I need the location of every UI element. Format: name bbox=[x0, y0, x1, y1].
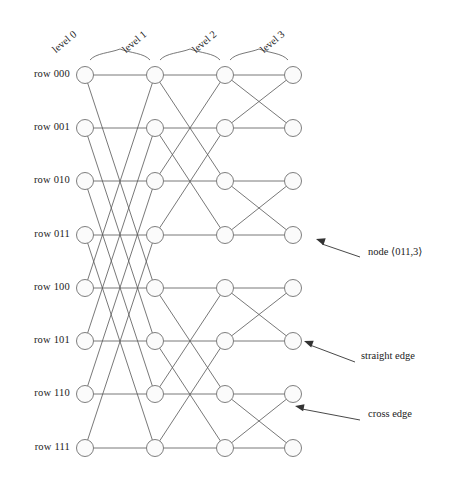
row-label-111: row 111 bbox=[0, 441, 70, 452]
nodes-layer bbox=[77, 67, 302, 457]
node-110-2 bbox=[217, 386, 234, 403]
row-label-100: row 100 bbox=[0, 281, 70, 292]
node-110-3 bbox=[285, 386, 302, 403]
row-label-011: row 011 bbox=[0, 228, 70, 239]
node-annotation-text: node ⟨011,3⟩ bbox=[368, 245, 422, 257]
row-label-000: row 000 bbox=[0, 68, 70, 79]
node-011-1 bbox=[147, 227, 164, 244]
cross-edge-annotation-text: cross edge bbox=[368, 408, 412, 419]
node-001-1 bbox=[147, 120, 164, 137]
node-000-2 bbox=[217, 67, 234, 84]
node-001-2 bbox=[217, 120, 234, 137]
row-label-101: row 101 bbox=[0, 334, 70, 345]
annotation-lines-layer bbox=[295, 238, 360, 420]
node-000-3 bbox=[285, 67, 302, 84]
node-011-3 bbox=[285, 227, 302, 244]
node-001-3 bbox=[285, 120, 302, 137]
cross-edge-annotation-leader-line bbox=[302, 409, 360, 420]
butterfly-network-figure: row 000row 001row 010row 011row 100row 1… bbox=[0, 0, 455, 483]
straight-edge-annotation-leader-line bbox=[310, 345, 355, 362]
node-101-2 bbox=[217, 333, 234, 350]
node-111-3 bbox=[285, 440, 302, 457]
node-010-1 bbox=[147, 173, 164, 190]
row-label-010: row 010 bbox=[0, 174, 70, 185]
node-101-0 bbox=[77, 333, 94, 350]
brace-1 bbox=[160, 49, 220, 60]
brace-0 bbox=[90, 49, 150, 60]
node-annotation-arrowhead bbox=[316, 238, 326, 245]
cross-edge-annotation-arrowhead bbox=[295, 404, 305, 411]
node-111-1 bbox=[147, 440, 164, 457]
edges-layer bbox=[88, 75, 287, 448]
row-label-001: row 001 bbox=[0, 121, 70, 132]
straight-edge-annotation-arrowhead bbox=[304, 341, 314, 348]
node-000-1 bbox=[147, 67, 164, 84]
node-001-0 bbox=[77, 120, 94, 137]
node-111-0 bbox=[77, 440, 94, 457]
node-101-3 bbox=[285, 333, 302, 350]
node-000-0 bbox=[77, 67, 94, 84]
straight-edge-annotation-text: straight edge bbox=[361, 350, 415, 361]
node-101-1 bbox=[147, 333, 164, 350]
node-100-2 bbox=[217, 280, 234, 297]
node-100-0 bbox=[77, 280, 94, 297]
node-111-2 bbox=[217, 440, 234, 457]
node-110-0 bbox=[77, 386, 94, 403]
row-label-110: row 110 bbox=[0, 387, 70, 398]
node-100-3 bbox=[285, 280, 302, 297]
node-annotation-leader-line bbox=[322, 244, 360, 257]
node-100-1 bbox=[147, 280, 164, 297]
node-110-1 bbox=[147, 386, 164, 403]
node-011-0 bbox=[77, 227, 94, 244]
brace-2 bbox=[230, 49, 288, 60]
node-010-2 bbox=[217, 173, 234, 190]
braces-layer bbox=[90, 49, 288, 60]
node-010-0 bbox=[77, 173, 94, 190]
node-010-3 bbox=[285, 173, 302, 190]
node-011-2 bbox=[217, 227, 234, 244]
